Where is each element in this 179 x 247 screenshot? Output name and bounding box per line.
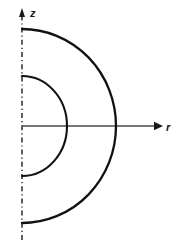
z-axis-arrowhead	[19, 8, 25, 17]
figure-canvas: z r	[0, 0, 179, 247]
r-axis-label: r	[166, 121, 171, 133]
diagram-svg: z r	[0, 0, 179, 247]
z-axis-label: z	[29, 7, 36, 19]
r-axis-arrowhead	[154, 122, 163, 130]
